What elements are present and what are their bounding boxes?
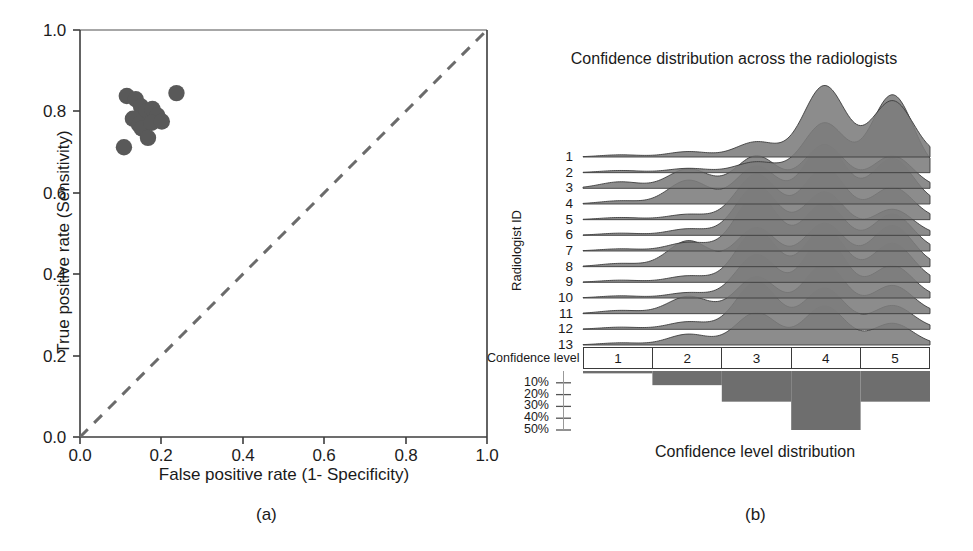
confidence-bar <box>652 371 721 385</box>
panel-b-confidence-plot: Confidence distribution across the radio… <box>495 0 973 551</box>
roc-point <box>116 139 132 155</box>
chance-diagonal-line <box>80 30 487 437</box>
roc-ytick-1_0: 1.0 <box>22 21 66 41</box>
roc-scatter-svg <box>0 0 520 500</box>
roc-y-axis-label: True positive rate (Sensitivity) <box>54 92 74 392</box>
roc-xtick-0_4: 0.4 <box>219 446 267 466</box>
sublabel-a: (a) <box>256 505 277 525</box>
bar-chart-caption: Confidence level distribution <box>555 443 955 461</box>
roc-ytick-0_0: 0.0 <box>22 428 66 448</box>
roc-point <box>140 130 156 146</box>
roc-point <box>168 85 184 101</box>
confidence-bar <box>861 371 930 402</box>
confidence-bar <box>583 371 652 373</box>
roc-xtick-0_8: 0.8 <box>382 446 430 466</box>
bar-chart-bars-group <box>583 371 930 430</box>
roc-xtick-0_6: 0.6 <box>300 446 348 466</box>
roc-x-ticks <box>80 437 487 444</box>
roc-point <box>154 113 170 129</box>
roc-x-axis-label: False positive rate (1- Specificity) <box>80 465 488 485</box>
percent-tick-label: 50% <box>503 423 549 436</box>
confidence-bar-chart-svg <box>495 0 973 460</box>
confidence-bar <box>722 371 791 402</box>
confidence-bar <box>791 371 860 430</box>
roc-xtick-0_0: 0.0 <box>56 446 104 466</box>
sublabel-b: (b) <box>745 505 766 525</box>
figure-root: 1.0 0.8 0.6 0.4 0.2 0.0 0.0 0.2 0.4 0.6 … <box>0 0 973 551</box>
roc-y-ticks <box>73 30 80 437</box>
roc-xtick-0_2: 0.2 <box>137 446 185 466</box>
roc-points-group <box>116 85 185 156</box>
bar-chart-ticks-group <box>556 371 571 430</box>
panel-a-roc-plot: 1.0 0.8 0.6 0.4 0.2 0.0 0.0 0.2 0.4 0.6 … <box>0 0 520 551</box>
